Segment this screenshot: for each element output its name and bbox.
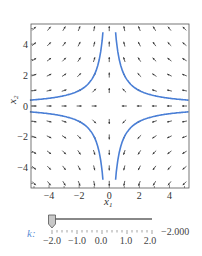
- y-tick-label: −2: [17, 131, 28, 142]
- arrow-head-icon: [108, 73, 110, 75]
- x-tick-label: 4: [167, 190, 172, 201]
- arrow-head-icon: [108, 153, 110, 155]
- slider-tick-label: 0.0: [95, 235, 108, 246]
- arrow-head-icon: [95, 105, 97, 107]
- arrow-head-icon: [35, 105, 37, 107]
- arrow-head-icon: [152, 89, 154, 91]
- slider-thumb[interactable]: [49, 215, 56, 228]
- arrow-head-icon: [108, 26, 110, 28]
- y-axis-label: x2: [6, 95, 20, 105]
- slider-value: −2.000: [161, 226, 189, 237]
- arrow-head-icon: [80, 105, 82, 107]
- y-tick-label: 0: [23, 101, 28, 112]
- y-tick-label: −4: [17, 162, 28, 173]
- x-tick-label: −2: [74, 190, 85, 201]
- arrow-head-icon: [50, 105, 52, 107]
- arrow-head-icon: [152, 121, 154, 123]
- arrow-head-icon: [152, 105, 154, 107]
- arrow-head-icon: [65, 105, 67, 107]
- slider-ticks: [52, 230, 152, 234]
- arrow-head-icon: [182, 105, 184, 107]
- arrow-head-icon: [108, 88, 110, 90]
- y-tick-label: 2: [23, 70, 28, 81]
- vector-field: [32, 26, 187, 186]
- arrow-head-icon: [93, 153, 95, 155]
- arrow-head-icon: [123, 57, 125, 59]
- arrow-head-icon: [123, 153, 125, 155]
- plot-frame: [31, 24, 189, 188]
- x-tick-label: 2: [137, 190, 142, 201]
- arrow-head-icon: [108, 122, 110, 124]
- slider-tick-label: 2.0: [144, 235, 157, 246]
- slider-tick-label: −1.0: [68, 235, 86, 246]
- slider-tick-label: 1.0: [120, 235, 133, 246]
- slider-label: k:: [27, 227, 36, 239]
- arrow-head-icon: [64, 121, 66, 123]
- arrow-head-icon: [122, 105, 124, 107]
- arrow-head-icon: [108, 168, 110, 170]
- arrow-head-icon: [108, 42, 110, 44]
- arrow-head-icon: [108, 137, 110, 139]
- arrow-head-icon: [167, 105, 169, 107]
- x-tick-label: −4: [44, 190, 55, 201]
- arrow-head-icon: [93, 57, 95, 59]
- slider-tick-label: −2.0: [43, 235, 61, 246]
- solution-curves: [30, 32, 189, 179]
- arrow-head-icon: [137, 105, 139, 107]
- y-tick-label: 4: [23, 39, 28, 50]
- arrow-head-icon: [64, 89, 66, 91]
- arrow-head-icon: [108, 57, 110, 59]
- phase-portrait-plot: −4−2024−4−2024 x1 x2: [0, 0, 202, 210]
